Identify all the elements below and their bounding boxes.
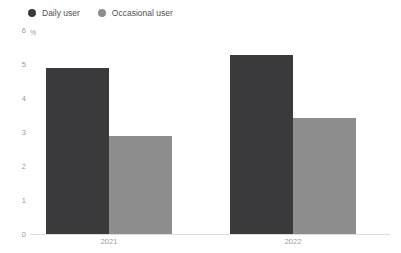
bar[interactable] — [46, 68, 109, 235]
x-axis-labels: 20212022 — [30, 238, 390, 250]
circle-dot-icon — [28, 9, 36, 17]
bar[interactable] — [109, 136, 172, 235]
bar-group — [230, 31, 356, 235]
y-axis-tick-label: 5 — [8, 61, 26, 69]
bar-series-container — [30, 31, 390, 235]
y-axis-tick-label: 1 — [8, 197, 26, 205]
bar[interactable] — [293, 118, 356, 235]
y-axis-tick-label: 6 — [8, 27, 26, 35]
legend-label-daily-user: Daily user — [42, 9, 80, 18]
y-axis-tick-label: 2 — [8, 163, 26, 171]
x-axis-line — [30, 234, 390, 235]
bar-chart: Daily user Occasional user % 6543210 202… — [0, 0, 401, 253]
bar-group — [46, 31, 172, 235]
y-axis-tick-label: 4 — [8, 95, 26, 103]
legend-item-daily-user[interactable]: Daily user — [28, 9, 80, 18]
chart-legend: Daily user Occasional user — [28, 6, 173, 20]
circle-dot-icon — [98, 9, 106, 17]
x-axis-tick-label: 2022 — [285, 238, 302, 246]
bar[interactable] — [230, 55, 293, 235]
plot-area: 6543210 — [30, 31, 390, 235]
x-axis-tick-label: 2021 — [101, 238, 118, 246]
y-axis-tick-label: 0 — [8, 231, 26, 239]
legend-item-occasional-user[interactable]: Occasional user — [98, 9, 173, 18]
legend-label-occasional-user: Occasional user — [112, 9, 173, 18]
y-axis-tick-label: 3 — [8, 129, 26, 137]
